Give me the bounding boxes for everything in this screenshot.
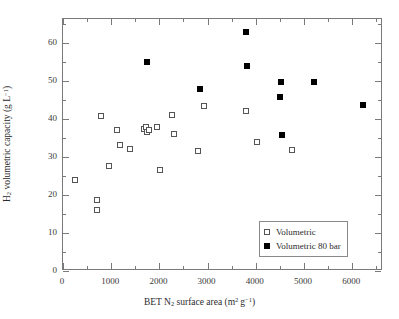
data-point-marker — [201, 103, 207, 109]
y-axis-tick-right — [375, 43, 381, 44]
x-axis-tick-label: 5000 — [283, 276, 323, 286]
y-axis-title-text-2: volumetric capacity (g L — [2, 96, 12, 192]
scatter-chart-figure: H2 volumetric capacity (g L−1) 010002000… — [0, 0, 399, 319]
data-point-marker — [98, 113, 104, 119]
y-axis-tick-right — [375, 271, 381, 272]
y-axis-title: H2 volumetric capacity (g L−1) — [2, 86, 13, 202]
legend-item-label: Volumetric 80 bar — [276, 241, 341, 251]
x-axis-tick-label: 2000 — [138, 276, 178, 286]
x-axis-title-text-3: g — [238, 297, 245, 307]
x-axis-title-text-4: ) — [252, 297, 255, 307]
y-axis-title-sub: 2 — [5, 192, 12, 195]
y-axis-tick — [63, 100, 66, 101]
x-axis-tick — [63, 263, 64, 269]
x-axis-tick — [232, 266, 233, 269]
x-axis-tick-label: 0 — [42, 276, 82, 286]
data-point-marker — [311, 79, 317, 85]
y-axis-tick-right — [375, 81, 381, 82]
y-axis-tick — [63, 214, 66, 215]
x-axis-tick-top — [111, 19, 112, 25]
y-axis-tick-right — [378, 176, 381, 177]
y-axis-tick-right — [378, 214, 381, 215]
y-axis-tick — [63, 195, 69, 196]
x-axis-tick — [208, 263, 209, 269]
data-point-marker — [94, 197, 100, 203]
data-point-marker — [289, 147, 295, 153]
data-point-marker — [94, 207, 100, 213]
y-axis-tick — [63, 62, 66, 63]
x-axis-tick-label: 4000 — [235, 276, 275, 286]
data-point-marker — [154, 124, 160, 130]
y-axis-tick — [63, 176, 66, 177]
x-axis-title-sup-2: −1 — [245, 296, 252, 303]
x-axis-tick-label: 6000 — [331, 276, 371, 286]
x-axis-tick — [328, 266, 329, 269]
x-axis-tick — [87, 266, 88, 269]
data-point-marker — [360, 102, 366, 108]
y-axis-tick-right — [375, 233, 381, 234]
x-axis-tick — [159, 263, 160, 269]
legend-item-label: Volumetric — [276, 227, 316, 237]
y-axis-tick — [63, 138, 66, 139]
x-axis-tick — [352, 263, 353, 269]
x-axis-tick-label: 1000 — [90, 276, 130, 286]
x-axis-tick-top — [208, 19, 209, 25]
x-axis-tick-top — [135, 19, 136, 22]
y-axis-tick-label: 60 — [31, 37, 57, 47]
x-axis-tick-top — [280, 19, 281, 22]
filled-square-marker-icon — [264, 243, 270, 249]
y-axis-tick-right — [375, 195, 381, 196]
y-axis-tick — [63, 157, 69, 158]
data-point-marker — [195, 148, 201, 154]
y-axis-tick — [63, 119, 69, 120]
data-point-marker — [114, 127, 120, 133]
x-axis-tick-top — [232, 19, 233, 22]
x-axis-tick-label: 3000 — [187, 276, 227, 286]
data-point-marker — [254, 139, 260, 145]
x-axis-tick-top — [183, 19, 184, 22]
x-axis-tick-top — [376, 19, 377, 22]
data-point-marker — [243, 29, 249, 35]
x-axis-tick — [280, 266, 281, 269]
x-axis-tick-top — [352, 19, 353, 25]
data-point-marker — [144, 59, 150, 65]
y-axis-tick-label: 30 — [31, 151, 57, 161]
data-point-marker — [146, 127, 152, 133]
x-axis-tick-top — [304, 19, 305, 25]
y-axis-tick — [63, 81, 69, 82]
x-axis-tick-top — [159, 19, 160, 25]
y-axis-tick-label: 20 — [31, 189, 57, 199]
y-axis-tick-right — [378, 138, 381, 139]
y-axis-tick-label: 40 — [31, 113, 57, 123]
y-axis-tick-right — [378, 62, 381, 63]
data-point-marker — [243, 108, 249, 114]
y-axis-tick-right — [375, 119, 381, 120]
x-axis-tick-top — [87, 19, 88, 22]
y-axis-tick — [63, 24, 66, 25]
x-axis-tick — [256, 263, 257, 269]
data-point-marker — [106, 163, 112, 169]
y-axis-tick-right — [378, 252, 381, 253]
y-axis-tick — [63, 43, 69, 44]
data-point-marker — [171, 131, 177, 137]
data-point-marker — [127, 146, 133, 152]
y-axis-tick-right — [375, 157, 381, 158]
y-axis-tick-label: 0 — [31, 265, 57, 275]
x-axis-tick — [135, 266, 136, 269]
y-axis-title-container: H2 volumetric capacity (g L−1) — [0, 18, 14, 270]
y-axis-tick-right — [378, 24, 381, 25]
data-point-marker — [277, 94, 283, 100]
x-axis-title-text: BET N — [144, 297, 171, 307]
legend-item-volumetric-80-bar[interactable]: Volumetric 80 bar — [264, 239, 341, 253]
x-axis-tick-top — [256, 19, 257, 25]
legend: Volumetric Volumetric 80 bar — [259, 221, 348, 257]
y-axis-tick-right — [378, 100, 381, 101]
data-point-marker — [72, 177, 78, 183]
y-axis-title-text: H — [2, 195, 12, 202]
x-axis-tick — [183, 266, 184, 269]
x-axis-tick — [304, 263, 305, 269]
data-point-marker — [244, 63, 250, 69]
y-axis-title-sup: −1 — [2, 89, 9, 96]
y-axis-title-text-3: ) — [2, 86, 12, 89]
legend-item-volumetric[interactable]: Volumetric — [264, 225, 341, 239]
